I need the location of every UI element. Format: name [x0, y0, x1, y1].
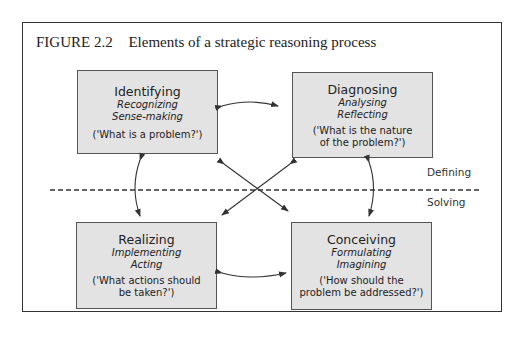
arrow-identifying-realizing: [135, 160, 140, 216]
arrow-identifying-conceiving: [224, 164, 288, 211]
connector-arrows: [0, 0, 517, 348]
arrow-diagnosing-realizing: [222, 164, 290, 215]
arrow-identifying-diagnosing: [222, 102, 278, 106]
arrow-realizing-conceiving: [222, 273, 286, 277]
arrow-diagnosing-conceiving: [369, 162, 374, 216]
